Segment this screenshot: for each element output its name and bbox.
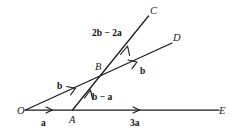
arrowhead-b-upper [128,60,137,69]
vector-label-b-minus-a: b − a [92,92,112,102]
vector-diagram-svg: O A B C D E a 3a b b − a b 2b − 2a [0,0,237,131]
vector-label-b-lower: b [57,81,62,91]
point-label-B: B [95,61,102,72]
vector-label-a: a [41,118,46,128]
vector-label-3a: 3a [130,118,140,128]
point-label-O: O [17,105,25,116]
point-label-D: D [172,32,181,43]
point-label-E: E [218,105,226,116]
vector-diagram-canvas: O A B C D E a 3a b b − a b 2b − 2a [0,0,237,131]
baseline-o-to-e [25,107,219,113]
vector-label-2b-minus-2a: 2b − 2a [92,28,122,38]
arrowhead-2b-minus-2a [121,46,130,56]
point-label-A: A [68,114,76,125]
vector-label-b-upper: b [140,66,145,76]
point-label-C: C [150,5,158,16]
